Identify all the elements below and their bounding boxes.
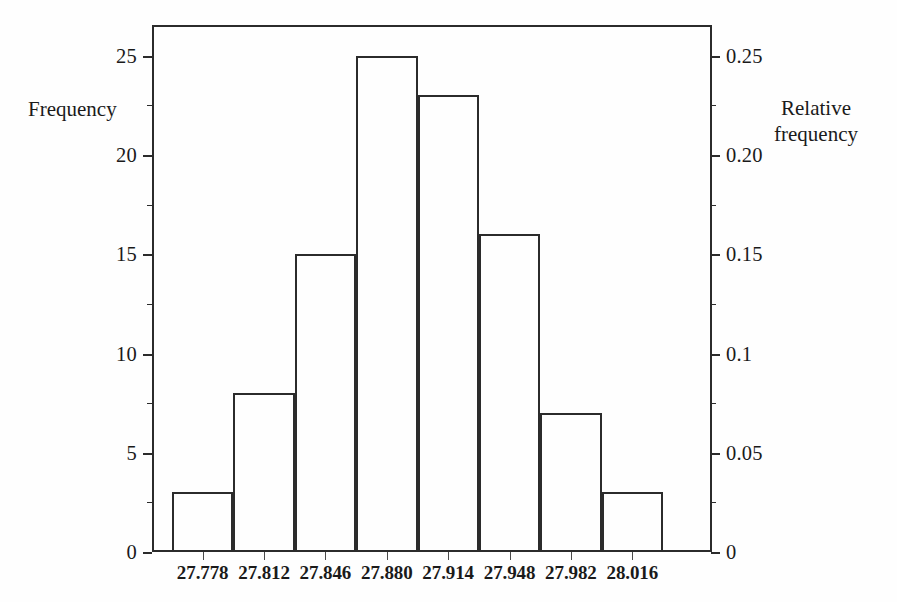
y2-axis-minor-tick (711, 205, 716, 206)
histogram-bar (479, 234, 540, 552)
y-axis-tick-label: 15 (17, 254, 137, 275)
x-axis-tick (203, 552, 204, 560)
y-axis-tick (143, 453, 152, 455)
y2-axis-minor-tick (711, 304, 716, 305)
y2-axis-tick (711, 453, 720, 455)
y-axis-tick (143, 254, 152, 256)
histogram-bar (540, 413, 601, 552)
y-axis-minor-tick (147, 205, 152, 206)
y2-axis-tick (711, 155, 720, 157)
y2-axis-minor-tick (711, 403, 716, 404)
y-axis-tick (143, 552, 152, 554)
histogram-figure: Frequency Relative frequency 05101520250… (0, 0, 897, 602)
histogram-bar (602, 492, 663, 552)
histogram-bar (295, 254, 356, 552)
y-axis-tick (143, 56, 152, 58)
x-axis-tick (571, 552, 572, 560)
x-axis-tick (264, 552, 265, 560)
y-axis-tick-label: 20 (17, 155, 137, 176)
y2-axis-tick (711, 552, 720, 554)
y-axis-tick-label: 10 (17, 354, 137, 375)
y2-axis-tick-label: 0.1 (726, 343, 752, 364)
y2-axis-tick-label: 0.05 (726, 443, 763, 464)
histogram-bar (172, 492, 233, 552)
y-axis-minor-tick (147, 304, 152, 305)
histogram-bar (233, 393, 294, 552)
x-axis-tick-label: 28.016 (577, 562, 687, 584)
y2-axis-tick-label: 0.15 (726, 244, 763, 265)
y2-axis-minor-tick (711, 502, 716, 503)
x-axis-tick (448, 552, 449, 560)
y2-axis-tick-label: 0.25 (726, 46, 763, 67)
y-axis-tick-label: 25 (17, 56, 137, 77)
y-axis-minor-tick (147, 502, 152, 503)
y-axis-tick (143, 155, 152, 157)
y2-axis-tick (711, 56, 720, 58)
y-axis-minor-tick (147, 105, 152, 106)
y2-axis-minor-tick (711, 105, 716, 106)
y2-axis-tick-label: 0 (726, 542, 736, 563)
histogram-bar (356, 56, 417, 552)
y-axis-tick-label: 5 (17, 453, 137, 474)
y2-axis-tick (711, 254, 720, 256)
left-axis-title: Frequency (28, 97, 117, 122)
x-axis-tick (325, 552, 326, 560)
y2-axis-tick-label: 0.20 (726, 145, 763, 166)
right-axis-title: Relative frequency (774, 96, 858, 147)
y2-axis-tick (711, 354, 720, 356)
x-axis-tick (387, 552, 388, 560)
histogram-bar (418, 95, 479, 552)
x-axis-tick (632, 552, 633, 560)
right-axis-title-line2: frequency (774, 122, 858, 148)
y-axis-tick (143, 354, 152, 356)
y-axis-tick-label: 0 (17, 552, 137, 573)
x-axis-tick (510, 552, 511, 560)
bar-series (172, 25, 663, 552)
y-axis-minor-tick (147, 403, 152, 404)
right-axis-title-line1: Relative (781, 96, 851, 120)
